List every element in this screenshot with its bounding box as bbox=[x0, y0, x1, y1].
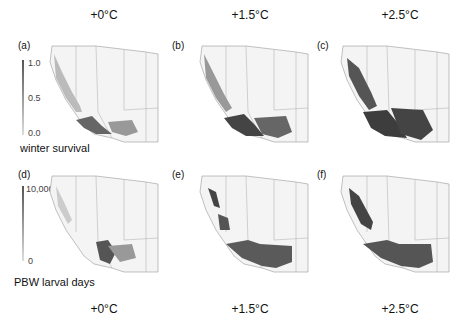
legend-title-larval-days: PBW larval days bbox=[14, 276, 95, 288]
legend-tick-min: 0.0 bbox=[28, 128, 41, 138]
map-panel-d bbox=[46, 172, 161, 277]
legend-tick-larval-min: 0 bbox=[28, 256, 33, 266]
legend-tick-max: 1.0 bbox=[28, 58, 41, 68]
panel-label-a: (a) bbox=[18, 40, 30, 51]
map-panel-a bbox=[46, 42, 161, 147]
legend-tick-mid: 0.5 bbox=[28, 93, 41, 103]
column-title-bottom-1: +1.5°C bbox=[190, 302, 310, 316]
map-panel-c bbox=[337, 42, 452, 147]
column-title-top-0: +0°C bbox=[44, 8, 164, 22]
panel-label-e: (e) bbox=[172, 169, 184, 180]
panel-label-c: (c) bbox=[317, 40, 329, 51]
column-title-top-1: +1.5°C bbox=[190, 8, 310, 22]
legend-colorbar-survival bbox=[22, 60, 24, 135]
column-title-bottom-0: +0°C bbox=[44, 302, 164, 316]
panel-label-d: (d) bbox=[18, 169, 30, 180]
panel-label-b: (b) bbox=[172, 40, 184, 51]
map-panel-b bbox=[196, 42, 311, 147]
column-title-top-2: +2.5°C bbox=[340, 8, 460, 22]
map-panel-f bbox=[337, 172, 452, 277]
legend-colorbar-larval-days bbox=[22, 186, 24, 261]
map-panel-e bbox=[196, 172, 311, 277]
panel-label-f: (f) bbox=[317, 169, 326, 180]
column-title-bottom-2: +2.5°C bbox=[340, 302, 460, 316]
